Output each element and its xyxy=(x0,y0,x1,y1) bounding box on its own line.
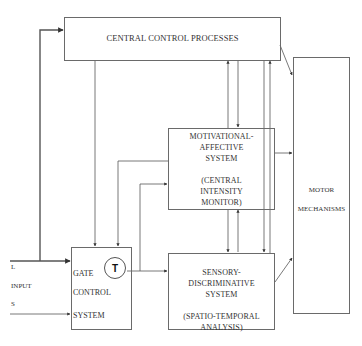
sensory-line-2: DISCRIMINATIVE xyxy=(169,278,274,289)
motivational-to-gate-line xyxy=(118,161,168,246)
small-fiber-label: S xyxy=(11,299,15,310)
large-fiber-label: L xyxy=(11,262,15,273)
sensory-line-4: (SPATIO-TEMPORAL xyxy=(169,311,274,322)
motivational-line-2: AFFECTIVE xyxy=(169,142,274,153)
motivational-line-1: MOTIVATIONAL- xyxy=(169,131,274,142)
motor-mechanisms-box: MOTOR MECHANISMS xyxy=(293,57,350,314)
gate-line-1: GATE xyxy=(73,268,93,279)
motivational-line-5: INTENSITY xyxy=(169,186,274,197)
transmission-cell-label: T xyxy=(112,263,118,274)
gate-line-2: CONTROL xyxy=(73,287,111,298)
motivational-line-3: SYSTEM xyxy=(169,153,274,164)
gate-to-motivational-line xyxy=(140,184,167,271)
sensory-line-1: SENSORY- xyxy=(169,267,274,278)
sensory-line-5: ANALYSIS) xyxy=(169,322,274,333)
input-label: INPUT xyxy=(11,281,32,292)
sensory-to-motor-line xyxy=(275,258,292,282)
motor-line-1: MOTOR xyxy=(294,185,349,196)
motivational-line-4: (CENTRAL xyxy=(169,175,274,186)
transmission-cell-icon: T xyxy=(104,257,126,279)
large-fiber-to-central-line xyxy=(40,30,63,261)
sensory-label: SENSORY- DISCRIMINATIVE SYSTEM (SPATIO-T… xyxy=(169,267,274,333)
sensory-line-3: SYSTEM xyxy=(169,289,274,300)
central-to-motor-line xyxy=(280,45,292,75)
central-control-label: CENTRAL CONTROL PROCESSES xyxy=(65,33,280,44)
motor-line-2: MECHANISMS xyxy=(294,204,349,215)
motivational-label: MOTIVATIONAL- AFFECTIVE SYSTEM (CENTRAL … xyxy=(169,131,274,208)
sensory-discriminative-system-box: SENSORY- DISCRIMINATIVE SYSTEM (SPATIO-T… xyxy=(168,253,275,330)
motivational-affective-system-box: MOTIVATIONAL- AFFECTIVE SYSTEM (CENTRAL … xyxy=(168,128,275,210)
gate-line-3: SYSTEM xyxy=(73,310,105,321)
central-control-processes-box: CENTRAL CONTROL PROCESSES xyxy=(64,17,281,61)
motivational-line-6: MONITOR) xyxy=(169,197,274,208)
